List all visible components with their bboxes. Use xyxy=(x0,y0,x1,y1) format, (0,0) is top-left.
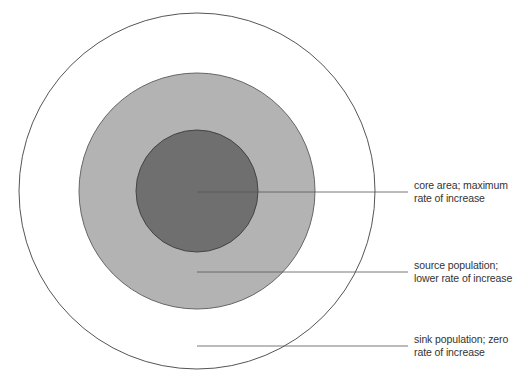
core-zone-circle xyxy=(136,130,258,252)
source-zone-label: source population; lower rate of increas… xyxy=(414,259,512,285)
sink-zone-label: sink population; zero rate of increase xyxy=(414,333,508,359)
core-label-line-2: rate of increase xyxy=(414,192,508,205)
sink-label-line-2: rate of increase xyxy=(414,346,508,359)
source-label-line-1: source population; xyxy=(414,259,512,272)
sink-label-line-1: sink population; zero xyxy=(414,333,508,346)
core-label-line-1: core area; maximum xyxy=(414,179,508,192)
core-zone-label: core area; maximum rate of increase xyxy=(414,179,508,205)
source-label-line-2: lower rate of increase xyxy=(414,272,512,285)
